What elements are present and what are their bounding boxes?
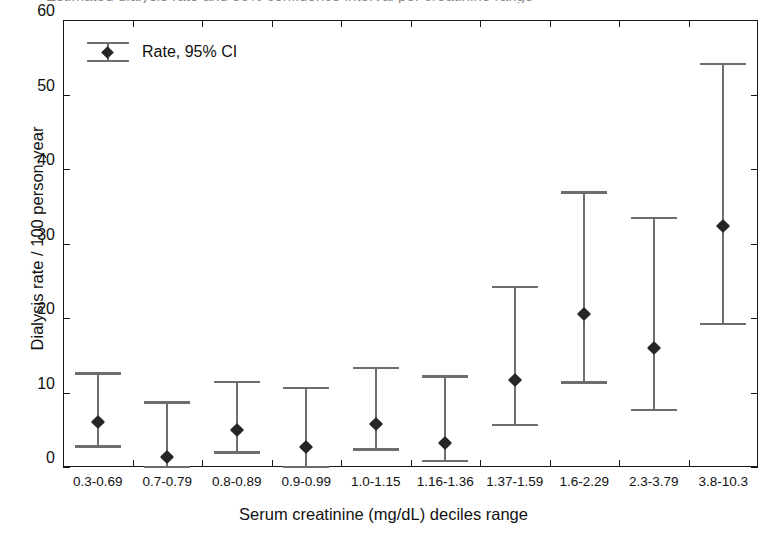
error-bar-lower-cap <box>561 381 607 383</box>
y-axis-tick <box>63 393 70 394</box>
error-bar-lower-cap <box>700 323 746 325</box>
y-axis-tick-label: 60 <box>15 2 55 20</box>
x-axis-tick <box>689 460 690 467</box>
error-bar-line <box>236 381 238 452</box>
y-axis-tick-label: 40 <box>15 151 55 169</box>
x-axis-title: Serum creatinine (mg/dL) deciles range <box>0 505 767 524</box>
x-axis-tick <box>202 460 203 467</box>
y-axis-tick-label: 10 <box>15 375 55 393</box>
error-bar-lower-cap <box>353 448 399 450</box>
error-bar-lower-cap <box>422 460 468 462</box>
error-bar-lower-cap <box>214 451 260 453</box>
error-bar-upper-cap <box>144 401 190 403</box>
y-axis-tick <box>751 318 758 319</box>
error-bar-upper-cap <box>561 191 607 193</box>
error-bar-line <box>514 286 516 424</box>
y-axis-tick <box>63 467 70 468</box>
x-axis-tick <box>689 20 690 27</box>
y-axis-tick <box>751 244 758 245</box>
error-bar-upper-cap <box>214 381 260 383</box>
y-axis-tick-label: 30 <box>15 226 55 244</box>
y-axis-tick <box>63 244 70 245</box>
x-axis-tick-label: 3.8-10.3 <box>668 474 767 489</box>
error-bar-upper-cap <box>283 387 329 389</box>
error-bar-line <box>653 217 655 409</box>
error-bar-line <box>375 367 377 448</box>
error-bar-upper-cap <box>631 217 677 219</box>
error-bar-line <box>97 372 99 445</box>
chart-legend: Rate, 95% CI <box>83 38 237 66</box>
x-axis-tick <box>411 20 412 27</box>
y-axis-tick <box>63 318 70 319</box>
x-axis-tick <box>480 460 481 467</box>
legend-errorbar-icon <box>83 38 133 66</box>
x-axis-tick <box>550 460 551 467</box>
x-axis-tick <box>272 20 273 27</box>
x-axis-tick <box>133 460 134 467</box>
y-axis-tick <box>63 20 70 21</box>
x-axis-tick <box>341 460 342 467</box>
y-axis-tick <box>63 95 70 96</box>
y-axis-tick-label: 20 <box>15 300 55 318</box>
error-bar-upper-cap <box>422 375 468 377</box>
error-bar-upper-cap <box>353 367 399 369</box>
x-axis-tick <box>341 20 342 27</box>
x-axis-tick <box>272 460 273 467</box>
y-axis-tick <box>751 95 758 96</box>
error-bar-upper-cap <box>700 63 746 65</box>
error-bar-upper-cap <box>75 372 121 374</box>
x-axis-tick <box>619 460 620 467</box>
error-bar-lower-cap <box>492 424 538 426</box>
y-axis-tick-label: 0 <box>15 449 55 467</box>
chart-title: Estimated dialysis rate and 95% confiden… <box>46 0 706 3</box>
error-bar-line <box>722 63 724 323</box>
x-axis-tick <box>550 20 551 27</box>
y-axis-tick <box>751 169 758 170</box>
legend-label: Rate, 95% CI <box>142 43 237 61</box>
y-axis-tick <box>751 20 758 21</box>
x-axis-tick <box>202 20 203 27</box>
y-axis-tick-label: 50 <box>15 77 55 95</box>
chart-figure: Estimated dialysis rate and 95% confiden… <box>0 0 767 533</box>
x-axis-tick <box>411 460 412 467</box>
x-axis-tick <box>619 20 620 27</box>
error-bar-lower-cap <box>283 466 329 468</box>
error-bar-line <box>583 191 585 381</box>
y-axis-tick <box>63 169 70 170</box>
error-bar-lower-cap <box>631 409 677 411</box>
x-axis-tick <box>480 20 481 27</box>
error-bar-lower-cap <box>144 466 190 468</box>
x-axis-tick <box>133 20 134 27</box>
y-axis-tick <box>751 393 758 394</box>
error-bar-upper-cap <box>492 286 538 288</box>
error-bar-lower-cap <box>75 445 121 447</box>
y-axis-tick <box>751 467 758 468</box>
